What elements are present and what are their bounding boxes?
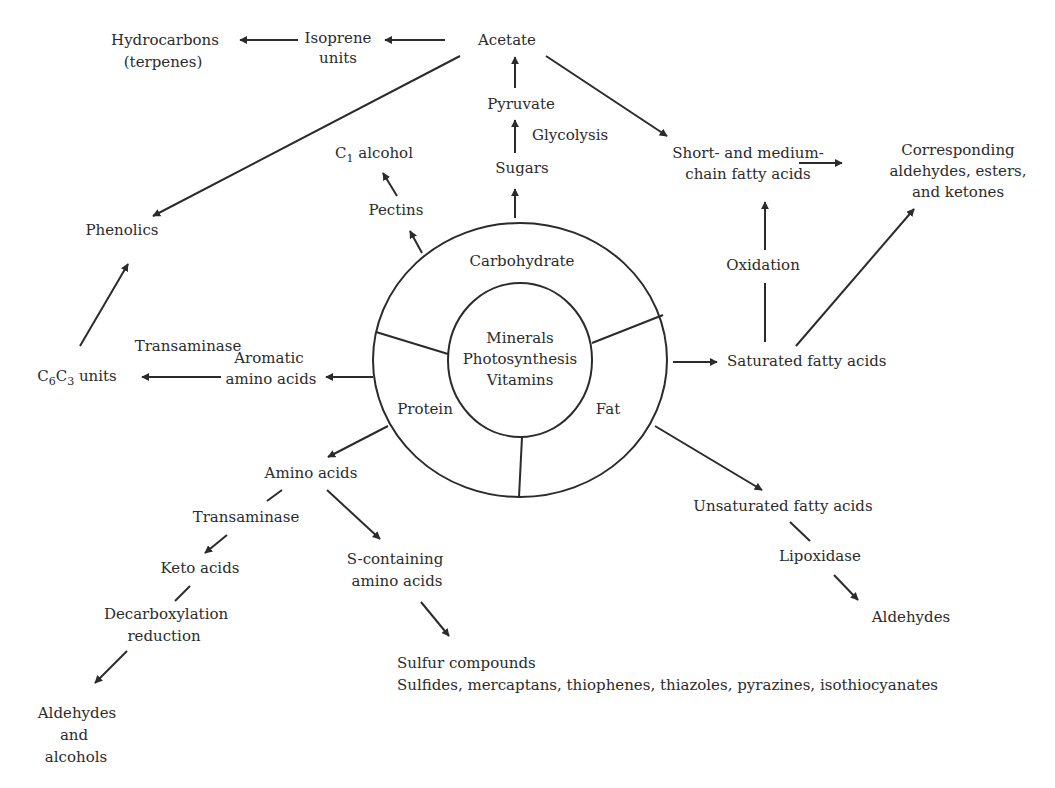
node-aldehydes-alcohols-line1: Aldehydes xyxy=(38,703,116,723)
node-sulfur-examples: Sulfides, mercaptans, thiophenes, thiazo… xyxy=(397,675,938,695)
segment-fat: Fat xyxy=(596,399,620,419)
node-unsaturated-fatty-acids: Unsaturated fatty acids xyxy=(693,496,872,516)
node-corresponding-line2: aldehydes, esters, xyxy=(889,161,1026,181)
node-sulfur-compounds: Sulfur compounds xyxy=(397,653,536,673)
label-decarboxylation-line1: Decarboxylation xyxy=(104,604,228,624)
segment-protein: Protein xyxy=(397,399,453,419)
inner-label-vitamins: Vitamins xyxy=(487,370,554,390)
label-transaminase-keto: Transaminase xyxy=(193,507,300,527)
label-glycolysis: Glycolysis xyxy=(532,125,608,145)
node-pectins: Pectins xyxy=(369,200,424,220)
node-short-medium-line2: chain fatty acids xyxy=(685,164,810,184)
node-phenolics: Phenolics xyxy=(85,220,158,240)
label-oxidation: Oxidation xyxy=(726,255,800,275)
node-sugars: Sugars xyxy=(495,158,548,178)
node-hydrocarbons-line2: (terpenes) xyxy=(124,52,203,72)
node-short-medium-line1: Short- and medium- xyxy=(672,143,823,163)
node-acetate: Acetate xyxy=(478,30,536,50)
label-decarboxylation-line2: reduction xyxy=(127,626,200,646)
node-hydrocarbons-line1: Hydrocarbons xyxy=(111,30,219,50)
node-aldehydes-alcohols-line2: and xyxy=(60,725,88,745)
node-corresponding-line3: and ketones xyxy=(912,182,1004,202)
inner-label-minerals: Minerals xyxy=(486,328,553,348)
segment-carbohydrate: Carbohydrate xyxy=(470,251,575,271)
node-amino-acids: Amino acids xyxy=(265,463,358,483)
flavor-pathway-diagram: Minerals Photosynthesis Vitamins Carbohy… xyxy=(0,0,1055,788)
inner-label-photosynthesis: Photosynthesis xyxy=(463,349,577,369)
node-aromatic-line1: Aromatic xyxy=(234,348,303,368)
label-lipoxidase: Lipoxidase xyxy=(779,546,861,566)
node-c1-alcohol: C1 alcohol xyxy=(335,143,413,165)
node-pyruvate: Pyruvate xyxy=(487,94,555,114)
node-aromatic-line2: amino acids xyxy=(226,369,317,389)
node-s-containing-line1: S-containing xyxy=(347,549,443,569)
node-s-containing-line2: amino acids xyxy=(352,571,443,591)
label-transaminase-aromatic: Transaminase xyxy=(135,336,242,356)
node-corresponding-line1: Corresponding xyxy=(901,140,1014,160)
node-c6c3-units: C6C3 units xyxy=(37,366,117,388)
node-keto-acids: Keto acids xyxy=(161,558,240,578)
node-isoprene-line2: units xyxy=(319,48,357,68)
node-isoprene-line1: Isoprene xyxy=(305,28,372,48)
node-saturated-fatty-acids: Saturated fatty acids xyxy=(727,351,887,371)
node-aldehydes-fat: Aldehydes xyxy=(872,607,950,627)
node-aldehydes-alcohols-line3: alcohols xyxy=(45,747,107,767)
